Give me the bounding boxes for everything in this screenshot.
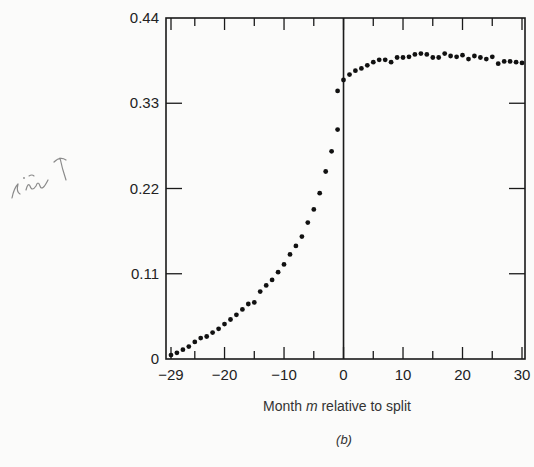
data-point xyxy=(442,51,447,56)
data-point xyxy=(186,344,191,349)
x-tick-label: 0 xyxy=(339,366,347,383)
data-point xyxy=(514,60,519,65)
data-point xyxy=(258,289,263,294)
data-point xyxy=(359,66,364,71)
data-point xyxy=(520,61,525,66)
data-point xyxy=(419,51,424,56)
data-point xyxy=(430,55,435,60)
data-point xyxy=(496,61,501,66)
data-point xyxy=(181,347,186,352)
data-point xyxy=(198,336,203,341)
data-point xyxy=(490,54,495,59)
x-axis-title: Month m relative to split xyxy=(263,398,411,414)
data-point xyxy=(228,317,233,322)
data-point xyxy=(484,57,489,62)
x-tick-label: −10 xyxy=(271,366,296,383)
data-point xyxy=(216,326,221,331)
plot-frame xyxy=(166,18,525,359)
data-point xyxy=(460,53,465,58)
x-tick-label: 30 xyxy=(514,366,531,383)
x-tick-label: 10 xyxy=(395,366,412,383)
data-point xyxy=(508,59,513,64)
data-point xyxy=(329,149,334,154)
data-point xyxy=(270,278,275,283)
data-point xyxy=(323,169,328,174)
data-point xyxy=(383,57,388,62)
data-point xyxy=(454,54,459,59)
data-point xyxy=(169,353,174,358)
data-point xyxy=(222,322,227,327)
data-point xyxy=(204,334,209,339)
axis-ticks xyxy=(166,18,525,359)
data-point xyxy=(311,207,316,212)
data-points xyxy=(169,51,525,357)
data-point xyxy=(365,63,370,68)
data-point xyxy=(288,252,293,257)
data-point xyxy=(502,59,507,64)
plot-border xyxy=(166,18,525,359)
data-point xyxy=(407,54,412,59)
y-tick-label: 0.33 xyxy=(130,94,159,111)
data-point xyxy=(246,302,251,307)
data-point xyxy=(395,55,400,60)
data-point xyxy=(294,244,299,249)
data-point xyxy=(413,52,418,57)
data-point xyxy=(424,52,429,57)
x-tick-label: −29 xyxy=(158,366,183,383)
data-point xyxy=(466,57,471,62)
data-point xyxy=(341,78,346,83)
data-point xyxy=(240,307,245,312)
data-point xyxy=(234,312,239,317)
handwritten-annotation: div ↑ xyxy=(4,140,74,200)
x-tick-label: 20 xyxy=(454,366,471,383)
data-point xyxy=(377,57,382,62)
data-point xyxy=(478,55,483,60)
data-point xyxy=(252,300,257,305)
data-point xyxy=(347,72,352,77)
data-point xyxy=(448,54,453,59)
data-point xyxy=(436,55,441,60)
data-point xyxy=(371,60,376,65)
data-point xyxy=(276,270,281,275)
data-point xyxy=(192,340,197,345)
data-point xyxy=(335,89,340,94)
data-point xyxy=(335,127,340,132)
y-tick-label: 0.22 xyxy=(130,180,159,197)
data-point xyxy=(305,220,310,225)
panel-label: (b) xyxy=(336,432,352,447)
scatter-chart: −29−20−10010203000.110.220.330.44 Month … xyxy=(0,0,534,467)
data-point xyxy=(210,330,215,335)
y-tick-label: 0.44 xyxy=(130,9,159,26)
data-point xyxy=(353,68,358,73)
data-point xyxy=(317,191,322,196)
y-tick-label: 0 xyxy=(151,350,159,367)
data-point xyxy=(300,234,305,239)
data-point xyxy=(264,283,269,288)
tick-labels: −29−20−10010203000.110.220.330.44 xyxy=(130,9,531,383)
y-tick-label: 0.11 xyxy=(131,265,159,282)
data-point xyxy=(175,350,180,355)
x-tick-label: −20 xyxy=(212,366,237,383)
data-point xyxy=(389,60,394,65)
data-point xyxy=(282,262,287,267)
data-point xyxy=(472,54,477,59)
data-point xyxy=(401,55,406,60)
